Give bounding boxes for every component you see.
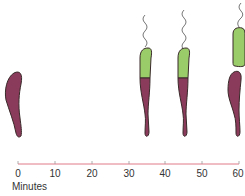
flagellum-icon	[143, 15, 147, 47]
tick-0: 0	[15, 168, 21, 179]
stalked-cell-0min	[5, 72, 21, 137]
flagellum-icon	[238, 3, 243, 27]
divided-cells-60min	[228, 3, 245, 136]
axis-title: Minutes	[12, 181, 47, 192]
tick-50: 50	[196, 168, 208, 179]
predivisional-cell-45min	[178, 10, 190, 136]
tick-30: 30	[123, 168, 135, 179]
tick-10: 10	[49, 168, 61, 179]
tick-20: 20	[86, 168, 98, 179]
caulobacter-cell-cycle-diagram: 0 10 20 30 40 50 60	[0, 0, 245, 196]
flagellum-icon	[182, 10, 186, 50]
predivisional-cell-35min	[140, 15, 152, 136]
tick-40: 40	[159, 168, 171, 179]
tick-60: 60	[232, 168, 244, 179]
time-axis: 0 10 20 30 40 50 60	[15, 161, 244, 179]
